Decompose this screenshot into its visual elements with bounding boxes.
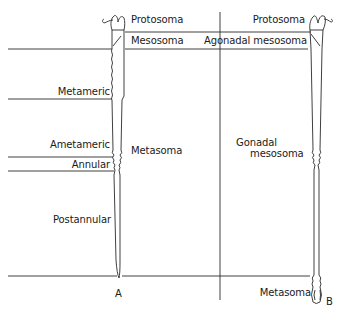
b-gonadal-label-line2: mesosoma: [250, 148, 304, 159]
a-mesosoma-label: Mesosoma: [131, 35, 184, 46]
b-protosoma-label: Protosoma: [253, 14, 305, 25]
b-agonadal-mesosoma-label: Agonadal mesosoma: [204, 35, 307, 46]
a-protosoma-label: Protosoma: [131, 14, 183, 25]
postannular-label: Postannular: [53, 214, 111, 225]
annular-label: Annular: [72, 159, 110, 170]
body-regions-diagram: Protosoma Mesosoma Metameric Ametameric …: [0, 0, 343, 311]
metameric-label: Metameric: [58, 86, 110, 97]
a-metasoma-label: Metasoma: [131, 145, 182, 156]
b-metasoma-label: Metasoma: [260, 287, 311, 298]
panel-a-id-label: A: [115, 288, 122, 299]
panel-b-id-label: B: [326, 296, 333, 307]
ametameric-label: Ametameric: [50, 139, 110, 150]
b-gonadal-label-line1: Gonadal: [236, 137, 277, 148]
worm-b-icon: [310, 16, 333, 304]
